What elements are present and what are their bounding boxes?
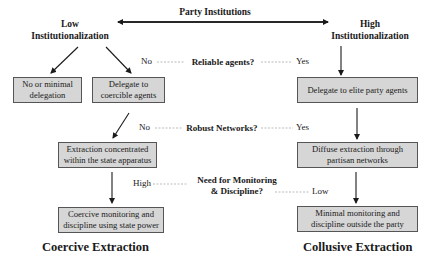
high-institutionalization-label: High Institutionalization (320, 18, 420, 42)
arrow-to-state-extraction (113, 113, 129, 138)
q2-label: Robust Networks? (184, 123, 260, 134)
box-text-line: coercible agents (101, 90, 157, 101)
q3-left-answer: High (133, 178, 151, 188)
q3-label-line2: & Discipline? (190, 186, 284, 197)
box-text-line: delegation (22, 90, 73, 101)
high-label-line1: High (320, 18, 420, 30)
q2-right-answer: Yes (296, 122, 309, 132)
outcome-coercive-extraction: Coercive Extraction (42, 240, 149, 255)
party-institutions-title: Party Institutions (165, 7, 265, 17)
box-text-line: No or minimal (22, 79, 73, 90)
q3-label-line1: Need for Monitoring (190, 175, 284, 186)
box-text-line: discipline outside the party (311, 219, 404, 230)
box-coercive-monitoring: Coercive monitoring anddiscipline using … (58, 207, 164, 233)
high-label-line2: Institutionalization (320, 30, 420, 42)
outcome-collusive-extraction: Collusive Extraction (303, 240, 412, 255)
low-label-line2: Institutionalization (20, 30, 120, 42)
arrow-to-coercible-agents (106, 47, 131, 73)
q1-left-answer: No (141, 56, 152, 66)
low-label-line1: Low (20, 18, 120, 30)
box-text-line: Extraction concentrated (64, 144, 152, 155)
box-text-line: Delegate to elite party agents (307, 85, 407, 96)
box-coercible-agents: Delegate tocoercible agents (92, 77, 165, 103)
q2-left-answer: No (139, 122, 150, 132)
box-text-line: Coercive monitoring and (63, 209, 159, 220)
q3-label: Need for Monitoring & Discipline? (190, 175, 284, 197)
q3-right-answer: Low (312, 186, 329, 196)
box-text-line: Diffuse extraction through (312, 144, 403, 155)
q1-label: Reliable agents? (186, 57, 260, 68)
box-text-line: discipline using state power (63, 220, 159, 231)
box-diffuse-extraction: Diffuse extraction throughpartisan netwo… (297, 142, 418, 168)
q1-right-answer: Yes (296, 56, 309, 66)
low-institutionalization-label: Low Institutionalization (20, 18, 120, 42)
arrow-to-no-delegation (51, 47, 78, 73)
box-elite-agents: Delegate to elite party agents (297, 77, 418, 103)
box-text-line: Delegate to (101, 79, 157, 90)
box-minimal-monitoring: Minimal monitoring anddiscipline outside… (297, 206, 418, 232)
box-state-extraction: Extraction concentratedwithin the state … (58, 142, 157, 168)
box-text-line: partisan networks (312, 155, 403, 166)
box-text-line: Minimal monitoring and (311, 208, 404, 219)
box-text-line: within the state apparatus (64, 155, 152, 166)
box-no-delegation: No or minimaldelegation (13, 77, 82, 103)
